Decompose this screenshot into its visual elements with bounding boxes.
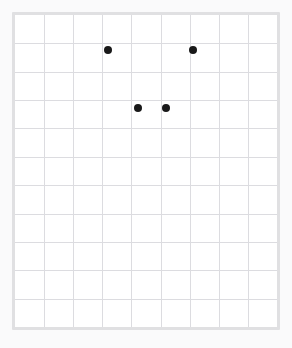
chart-panel [12,12,280,330]
data-point [162,104,170,112]
data-point [134,104,142,112]
scatter-points [15,15,277,327]
plot-area [15,15,277,327]
data-point [104,46,112,54]
data-point [189,46,197,54]
